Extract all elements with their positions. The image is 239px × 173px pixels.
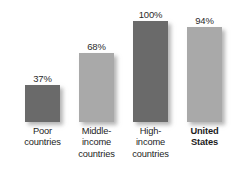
category-label-3-line-3: countries	[120, 149, 181, 160]
category-axis-labels: Poor countries Middle- income countries …	[0, 126, 239, 173]
bar-value-label-3: 100%	[124, 9, 177, 20]
bar-chart: 37% 68% 100% 94% Poor countries Middle- …	[0, 0, 239, 173]
bar-value-label-4: 94%	[178, 15, 231, 26]
bar-group-2: 68%	[79, 0, 114, 124]
bar-rect-1	[25, 85, 60, 122]
bar-rect-2	[79, 53, 114, 122]
bar-group-4: 94%	[187, 0, 222, 124]
category-label-3-line-1: High-	[120, 126, 181, 137]
category-label-2-line-2: income	[66, 137, 127, 148]
category-label-2-line-3: countries	[66, 149, 127, 160]
category-label-3-line-2: income	[120, 137, 181, 148]
category-label-3: High- income countries	[120, 126, 181, 160]
bar-group-1: 37%	[25, 0, 60, 124]
category-label-4: United States	[174, 126, 235, 149]
bar-value-label-1: 37%	[16, 73, 69, 84]
category-label-2: Middle- income countries	[66, 126, 127, 160]
category-label-1-line-2: countries	[12, 137, 73, 148]
bar-group-3: 100%	[133, 0, 168, 124]
category-label-1-line-1: Poor	[12, 126, 73, 137]
category-label-4-line-2: States	[174, 137, 235, 148]
bar-value-label-2: 68%	[70, 41, 123, 52]
chart-plot-area: 37% 68% 100% 94%	[0, 0, 239, 124]
category-label-4-line-1: United	[174, 126, 235, 137]
bar-rect-4	[187, 27, 222, 122]
category-label-1: Poor countries	[12, 126, 73, 149]
bar-rect-3	[133, 21, 168, 122]
category-label-2-line-1: Middle-	[66, 126, 127, 137]
